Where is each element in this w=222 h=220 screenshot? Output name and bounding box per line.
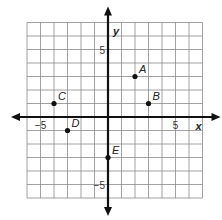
point-a — [132, 74, 137, 79]
x-axis-right-arrow-icon — [212, 113, 221, 121]
point-c — [51, 101, 56, 106]
coordinate-plane: xy−555−5 ABCDE — [0, 0, 222, 220]
x-tick-label: 5 — [173, 120, 179, 131]
point-b — [146, 101, 151, 106]
point-label-e: E — [112, 144, 120, 156]
point-d — [65, 128, 70, 133]
point-e — [105, 155, 110, 160]
y-tick-label: −5 — [94, 180, 106, 191]
point-label-b: B — [153, 90, 160, 102]
y-axis-down-arrow-icon — [104, 207, 112, 216]
point-label-d: D — [72, 117, 80, 129]
x-tick-label: −5 — [35, 120, 47, 131]
point-label-c: C — [58, 90, 66, 102]
grid — [27, 23, 203, 199]
y-axis-label: y — [112, 25, 120, 37]
y-tick-label: 5 — [99, 45, 105, 56]
point-label-a: A — [138, 63, 146, 75]
y-axis-up-arrow-icon — [104, 7, 112, 16]
x-axis-left-arrow-icon — [11, 113, 20, 121]
x-axis-label: x — [195, 120, 203, 132]
